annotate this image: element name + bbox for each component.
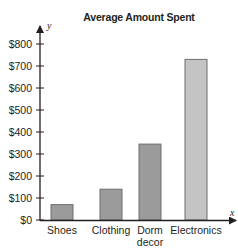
bar-electronics <box>185 59 207 220</box>
bars-group <box>51 59 207 220</box>
y-tick-label: $800 <box>9 38 33 50</box>
bar-chart: $0$100$200$300$400$500$600$700$800 Shoes… <box>0 0 238 248</box>
y-tick-label: $500 <box>9 104 33 116</box>
y-axis-ticks: $0$100$200$300$400$500$600$700$800 <box>9 38 44 226</box>
x-category-label: Clothing <box>92 224 131 236</box>
x-axis-labels: ShoesClothingDormdecorElectronics <box>47 224 222 248</box>
x-category-label: Dorm <box>137 224 163 236</box>
y-tick-label: $0 <box>20 214 32 226</box>
bar-shoes <box>51 205 73 220</box>
y-tick-label: $300 <box>9 148 33 160</box>
bar-dorm-decor <box>139 144 161 220</box>
x-category-label: decor <box>137 236 164 248</box>
y-tick-label: $700 <box>9 60 33 72</box>
x-category-label: Electronics <box>170 224 221 236</box>
x-category-label: Shoes <box>47 224 77 236</box>
y-tick-label: $400 <box>9 126 33 138</box>
y-axis-label: y <box>46 20 52 31</box>
y-tick-label: $600 <box>9 82 33 94</box>
y-tick-label: $200 <box>9 170 33 182</box>
x-axis-label: x <box>229 207 235 218</box>
bar-clothing <box>100 189 122 220</box>
y-tick-label: $100 <box>9 192 33 204</box>
